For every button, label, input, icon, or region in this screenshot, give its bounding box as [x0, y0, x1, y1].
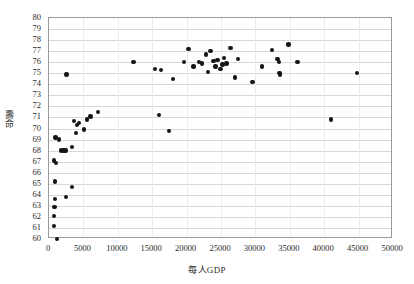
data-point	[52, 205, 56, 209]
gridline-horizontal	[49, 95, 391, 96]
y-axis-tick-label: 68	[0, 145, 41, 154]
gridline-horizontal	[49, 106, 391, 107]
data-point	[329, 117, 333, 121]
gridline-horizontal	[49, 228, 391, 229]
x-axis-tick-label: 45000	[347, 244, 368, 253]
y-axis-tick-label: 73	[0, 90, 41, 99]
data-point	[159, 68, 163, 72]
gridline-horizontal	[49, 73, 391, 74]
data-point	[153, 67, 157, 71]
gridline-vertical	[221, 18, 222, 237]
gridline-horizontal	[49, 84, 391, 85]
gridline-horizontal	[49, 184, 391, 185]
gridline-vertical	[118, 18, 119, 237]
x-axis-tick-label: 40000	[313, 244, 334, 253]
y-axis-tick-label: 78	[0, 35, 41, 44]
y-axis-tick-label: 79	[0, 24, 41, 33]
y-axis-tick-label: 66	[0, 167, 41, 176]
x-axis-tick-label: 50000	[381, 244, 402, 253]
x-axis-tick-label: 10000	[106, 244, 127, 253]
y-axis-tick-label: 61	[0, 223, 41, 232]
y-axis-tick-label: 62	[0, 212, 41, 221]
data-point	[218, 67, 222, 71]
data-point	[222, 56, 226, 60]
data-point	[74, 131, 78, 135]
gridline-vertical	[255, 18, 256, 237]
data-point	[70, 185, 74, 189]
gridline-vertical	[290, 18, 291, 237]
y-axis-tick-label: 75	[0, 68, 41, 77]
data-point	[278, 72, 282, 76]
data-point	[167, 129, 171, 133]
data-point	[200, 61, 204, 65]
data-point	[64, 72, 68, 76]
data-point	[88, 114, 92, 118]
y-axis-tick-label: 64	[0, 190, 41, 199]
data-point	[277, 60, 281, 64]
data-point	[82, 127, 86, 131]
x-axis-tick-label: 35000	[278, 244, 299, 253]
y-axis-tick-label: 80	[0, 13, 41, 22]
data-point	[57, 137, 61, 141]
data-point	[186, 47, 190, 51]
y-axis-tick-label: 63	[0, 201, 41, 210]
data-point	[70, 145, 74, 149]
gridline-horizontal	[49, 195, 391, 196]
x-axis-tick-label: 5000	[74, 244, 91, 253]
data-point	[250, 80, 254, 84]
x-axis-tick-label: 30000	[244, 244, 265, 253]
data-point	[55, 237, 59, 241]
scatter-chart: 6061626364656667686970717273747576777879…	[0, 0, 414, 284]
x-axis-tick-label: 15000	[141, 244, 162, 253]
gridline-vertical	[359, 18, 360, 237]
y-axis-tick-label: 60	[0, 234, 41, 243]
gridline-horizontal	[49, 29, 391, 30]
data-point	[53, 197, 57, 201]
gridline-horizontal	[49, 40, 391, 41]
gridline-horizontal	[49, 129, 391, 130]
plot-area	[48, 17, 392, 238]
gridline-horizontal	[49, 51, 391, 52]
data-point	[182, 60, 186, 64]
gridline-horizontal	[49, 151, 391, 152]
x-axis-tick-label: 20000	[175, 244, 196, 253]
y-axis-tick-label: 69	[0, 134, 41, 143]
data-point	[75, 123, 79, 127]
data-point	[191, 64, 195, 68]
gridline-vertical	[324, 18, 325, 237]
y-axis-ticks: 6061626364656667686970717273747576777879…	[0, 0, 45, 284]
data-point	[295, 60, 299, 64]
data-point	[208, 49, 212, 53]
data-point	[236, 57, 240, 61]
y-axis-tick-label: 76	[0, 57, 41, 66]
x-axis-tick-label: 0	[46, 244, 50, 253]
data-point	[171, 77, 175, 81]
data-point	[96, 110, 100, 114]
y-axis-tick-label: 72	[0, 101, 41, 110]
x-axis-title: 每人GDP	[0, 263, 414, 276]
y-axis-title: 壽命	[2, 110, 14, 128]
data-point	[204, 52, 208, 56]
gridline-vertical	[152, 18, 153, 237]
data-point	[131, 60, 135, 64]
data-point	[54, 161, 58, 165]
data-point	[228, 46, 232, 50]
data-point	[213, 64, 217, 68]
y-axis-tick-label: 77	[0, 46, 41, 55]
data-point	[286, 42, 290, 46]
data-point	[52, 224, 56, 228]
data-point	[224, 61, 228, 65]
data-point	[215, 58, 219, 62]
y-axis-tick-label: 74	[0, 79, 41, 88]
gridline-horizontal	[49, 206, 391, 207]
data-point	[64, 195, 68, 199]
gridline-horizontal	[49, 117, 391, 118]
gridline-horizontal	[49, 140, 391, 141]
gridline-horizontal	[49, 173, 391, 174]
data-point	[233, 75, 237, 79]
y-axis-tick-label: 65	[0, 179, 41, 188]
gridline-horizontal	[49, 217, 391, 218]
y-axis-tick-label: 67	[0, 156, 41, 165]
data-point	[260, 64, 264, 68]
data-point	[63, 148, 67, 152]
